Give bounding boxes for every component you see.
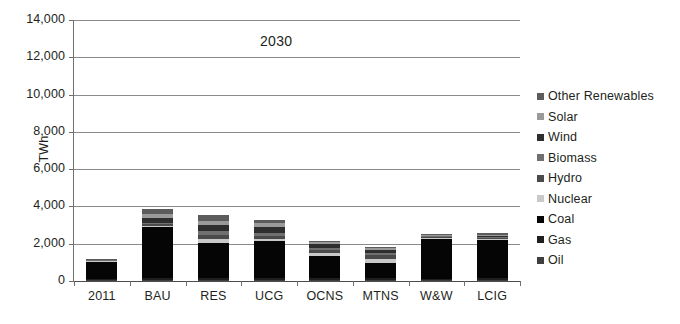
stacked-bar — [142, 209, 173, 281]
legend-swatch-icon — [537, 257, 544, 264]
bar-segment-biomass — [309, 248, 340, 250]
x-tick-mark — [130, 281, 131, 286]
bar-segment-gas — [365, 278, 396, 280]
x-tick-label-res: RES — [186, 289, 242, 303]
y-tick-label: 8,000 — [5, 125, 65, 137]
bar-segment-gas — [254, 278, 285, 280]
bar-segment-solar — [309, 242, 340, 244]
bar-segment-biomass — [254, 233, 285, 236]
bar-segment-biomass — [198, 231, 229, 235]
legend-swatch-icon — [537, 175, 544, 182]
x-tick-mark — [353, 281, 354, 286]
bar-segment-gas — [421, 279, 452, 281]
bar-segment-hydro — [309, 250, 340, 253]
bar-segment-wind — [254, 227, 285, 233]
bar-segment-other-renewables — [142, 209, 173, 214]
stacked-bar — [309, 241, 340, 281]
bar-segment-hydro — [254, 236, 285, 239]
legend-item-nuclear[interactable]: Nuclear — [537, 189, 654, 210]
legend-item-oil[interactable]: Oil — [537, 250, 654, 271]
plot-area — [74, 20, 520, 281]
stacked-bar — [365, 247, 396, 281]
x-tick-mark — [74, 281, 75, 286]
legend-label: Other Renewables — [548, 89, 654, 103]
bar-segment-hydro — [421, 237, 452, 238]
x-tick-label-w-w: W&W — [409, 289, 465, 303]
x-tick-mark — [409, 281, 410, 286]
gridline — [74, 132, 520, 133]
bar-segment-hydro — [142, 224, 173, 226]
bar-ocns[interactable] — [309, 20, 340, 281]
bar-segment-coal — [365, 263, 396, 278]
bar-segment-other-renewables — [254, 220, 285, 223]
chart-container: TWh 2030 02,0004,0006,0008,00010,00012,0… — [0, 0, 680, 324]
bar-segment-other-renewables — [86, 259, 117, 260]
bar-segment-solar — [198, 221, 229, 226]
bar-segment-coal — [86, 262, 117, 278]
legend-label: Coal — [548, 212, 574, 226]
legend-swatch-icon — [537, 93, 544, 100]
bar-segment-coal — [142, 227, 173, 278]
legend-item-gas[interactable]: Gas — [537, 230, 654, 251]
legend-item-biomass[interactable]: Biomass — [537, 148, 654, 169]
bar-segment-solar — [142, 214, 173, 217]
bar-mtns[interactable] — [365, 20, 396, 281]
bar-segment-oil — [198, 280, 229, 281]
bar-2011[interactable] — [86, 20, 117, 281]
legend-label: Wind — [548, 130, 577, 144]
x-tick-label-mtns: MTNS — [353, 289, 409, 303]
bar-segment-other-renewables — [365, 247, 396, 248]
stacked-bar — [198, 215, 229, 281]
x-tick-label-bau: BAU — [130, 289, 186, 303]
bar-segment-hydro — [198, 235, 229, 239]
bar-segment-wind — [477, 236, 508, 237]
x-tick-mark — [241, 281, 242, 286]
gridline — [74, 57, 520, 58]
x-tick-label-lcig: LCIG — [464, 289, 520, 303]
bar-segment-coal — [254, 241, 285, 278]
bar-w-w[interactable] — [421, 20, 452, 281]
y-tick-label: 6,000 — [5, 162, 65, 174]
bar-segment-other-renewables — [198, 215, 229, 221]
x-tick-label-ucg: UCG — [241, 289, 297, 303]
legend-label: Solar — [548, 110, 578, 124]
legend-item-wind[interactable]: Wind — [537, 127, 654, 148]
bar-segment-nuclear — [309, 253, 340, 255]
legend-label: Nuclear — [548, 192, 592, 206]
bar-segment-coal — [477, 240, 508, 278]
bar-bau[interactable] — [142, 20, 173, 281]
legend-label: Hydro — [548, 171, 582, 185]
bar-segment-coal — [309, 256, 340, 278]
legend-item-coal[interactable]: Coal — [537, 209, 654, 230]
legend-label: Biomass — [548, 151, 597, 165]
legend-swatch-icon — [537, 154, 544, 161]
gridline — [74, 169, 520, 170]
legend-item-hydro[interactable]: Hydro — [537, 168, 654, 189]
gridline — [74, 206, 520, 207]
bar-lcig[interactable] — [477, 20, 508, 281]
legend-label: Gas — [548, 233, 571, 247]
y-tick-label: 4,000 — [5, 199, 65, 211]
legend-swatch-icon — [537, 216, 544, 223]
bar-segment-wind — [198, 225, 229, 231]
bar-res[interactable] — [198, 20, 229, 281]
bar-segment-wind — [365, 250, 396, 252]
bar-segment-nuclear — [142, 226, 173, 227]
bar-segment-solar — [365, 248, 396, 250]
legend-item-solar[interactable]: Solar — [537, 107, 654, 128]
bar-ucg[interactable] — [254, 20, 285, 281]
bar-segment-gas — [309, 278, 340, 280]
y-tick-label: 2,000 — [5, 237, 65, 249]
x-tick-label-2011: 2011 — [74, 289, 130, 303]
stacked-bar — [86, 260, 117, 281]
legend-item-other-renewables[interactable]: Other Renewables — [537, 86, 654, 107]
bar-segment-hydro — [365, 255, 396, 259]
x-tick-mark — [186, 281, 187, 286]
bar-segment-nuclear — [254, 239, 285, 241]
legend-swatch-icon — [537, 113, 544, 120]
x-tick-mark — [520, 281, 521, 286]
bar-segment-biomass — [142, 223, 173, 224]
bar-segment-hydro — [477, 238, 508, 239]
y-tick-label: 10,000 — [5, 88, 65, 100]
stacked-bar — [254, 220, 285, 281]
